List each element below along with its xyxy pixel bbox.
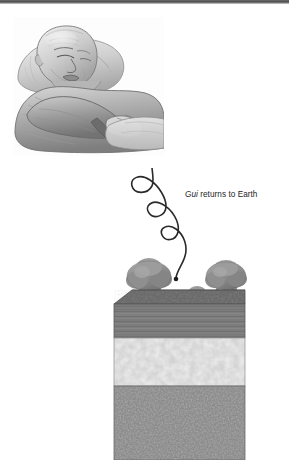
top-divider-rule <box>0 0 289 4</box>
ground-surface-top-face <box>114 290 245 304</box>
soil-block-svg <box>104 236 249 460</box>
stratum-bedrock <box>114 386 245 460</box>
annotation-rest: returns to Earth <box>198 190 258 199</box>
stratum-topsoil <box>114 304 245 338</box>
sleeping-man-drawing <box>13 17 164 156</box>
soil-cross-section <box>104 236 249 460</box>
annotation-term: Gui <box>185 190 198 199</box>
annotation-label: Gui returns to Earth <box>185 190 257 199</box>
stratum-middle-layer <box>114 338 245 386</box>
sleeping-man-illustration <box>13 17 164 156</box>
